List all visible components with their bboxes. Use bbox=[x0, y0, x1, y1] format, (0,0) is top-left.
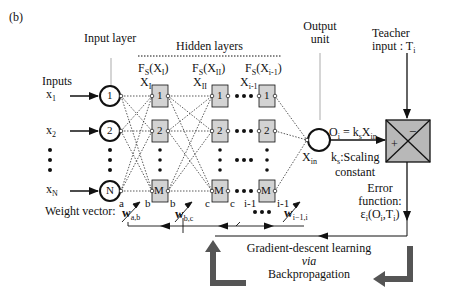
panel-label: (b) bbox=[9, 11, 23, 23]
h3-node-m: M bbox=[261, 185, 271, 196]
h1-node-1: 1 bbox=[157, 90, 163, 101]
h2-in-label: c bbox=[205, 198, 210, 209]
h1-node-m: M bbox=[154, 185, 164, 196]
h1-in-label: b bbox=[145, 198, 151, 209]
input-ellipsis bbox=[48, 148, 112, 172]
h1-node-2: 2 bbox=[157, 125, 163, 136]
h3-node-2: 2 bbox=[264, 125, 270, 136]
teacher-input-label: Teacherinput : Ti bbox=[372, 27, 415, 57]
connections-input-hidden1 bbox=[121, 96, 152, 191]
weight-bc-label: wb,c bbox=[175, 208, 193, 223]
h2-node-m: M bbox=[214, 185, 224, 196]
hidden-layer-3-x-label: Xi-1 bbox=[240, 76, 258, 91]
h2-out-label: c bbox=[230, 198, 235, 209]
scaling-label: ks:Scaling bbox=[331, 151, 379, 166]
output-equation: Oi = ksXin bbox=[329, 126, 377, 141]
input-xn-label: xN bbox=[46, 183, 58, 198]
output-node bbox=[305, 129, 330, 151]
h2-node-2: 2 bbox=[217, 125, 223, 136]
h3-node-1: 1 bbox=[264, 90, 270, 101]
learning-label: Gradient-descent learning via Backpropag… bbox=[244, 242, 374, 281]
weight-i-label: wi−1,i bbox=[284, 207, 308, 222]
output-unit-title: Outputunit bbox=[300, 20, 340, 46]
input-node-2-label: 2 bbox=[107, 125, 113, 136]
output-x-in-label: Xin bbox=[302, 151, 317, 166]
comparator-minus: − bbox=[409, 125, 416, 138]
input-x2-label: x2 bbox=[46, 124, 56, 139]
hidden-layer-1-x-label: XI bbox=[140, 76, 151, 91]
error-function-label: Error function: εi(Oi,Ti) bbox=[356, 182, 404, 225]
weight-update-line bbox=[128, 218, 304, 233]
weight-ab-label: wa,b bbox=[122, 207, 140, 222]
connections-hidden1-hidden2 bbox=[168, 96, 212, 191]
h3-in-label: i-1 bbox=[244, 198, 256, 209]
connections-hidden-output bbox=[275, 96, 307, 191]
input-node-n-label: N bbox=[106, 185, 114, 196]
scaling-label-line2: constant bbox=[335, 166, 375, 178]
weight-vector-title: Weight vector: bbox=[45, 205, 116, 217]
input-node-1-label: 1 bbox=[107, 90, 113, 101]
input-layer-title: Input layer bbox=[84, 32, 136, 44]
hidden-layers-title: Hidden layers bbox=[176, 40, 243, 52]
inputs-title: Inputs bbox=[42, 75, 72, 87]
feedback-arrowhead bbox=[318, 233, 328, 240]
input-arrows bbox=[70, 96, 98, 191]
hidden-layer-2-x-label: XII bbox=[193, 76, 207, 91]
comparator-plus: + bbox=[391, 138, 398, 150]
hidden-layer-3-function: FS(Xi-1) bbox=[245, 62, 282, 77]
input-x1-label: x1 bbox=[46, 88, 56, 103]
h2-node-1: 1 bbox=[217, 90, 223, 101]
